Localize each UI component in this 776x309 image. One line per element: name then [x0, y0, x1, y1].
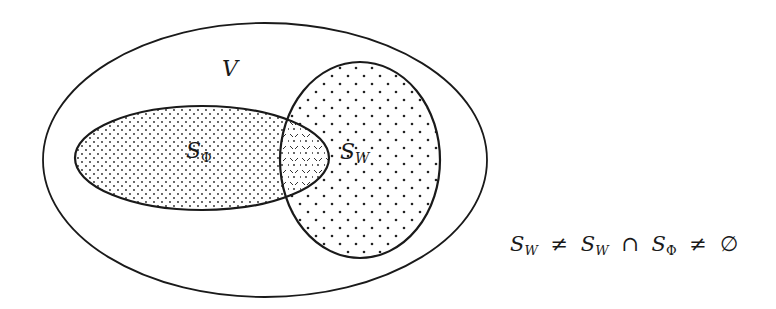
- empty-set-symbol: ∅: [720, 232, 738, 256]
- universe-label: V: [222, 56, 240, 81]
- venn-diagram: V SΦ SW: [0, 0, 776, 309]
- intersection-symbol: ∩: [621, 232, 639, 256]
- formula: SW ≠ SW ∩ SΦ ≠ ∅: [510, 232, 738, 258]
- not-equal-symbol: ≠: [689, 232, 707, 256]
- not-equal-symbol: ≠: [550, 232, 568, 256]
